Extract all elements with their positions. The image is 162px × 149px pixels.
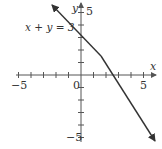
y-min-label: −5 bbox=[66, 131, 82, 144]
equation-label: x + y = 3 bbox=[25, 21, 75, 33]
line-x-plus-y-equals-3-lower bbox=[101, 56, 155, 141]
y-max-label: 5 bbox=[86, 5, 93, 18]
origin-label: 0 bbox=[73, 79, 80, 92]
coordinate-plane: y 5 x −5 0 5 −5 x + y = 3 bbox=[0, 0, 162, 149]
x-axis-label: x bbox=[150, 60, 157, 73]
x-min-label: −5 bbox=[11, 79, 27, 92]
y-axis-label: y bbox=[71, 2, 79, 15]
x-max-label: 5 bbox=[140, 79, 147, 92]
